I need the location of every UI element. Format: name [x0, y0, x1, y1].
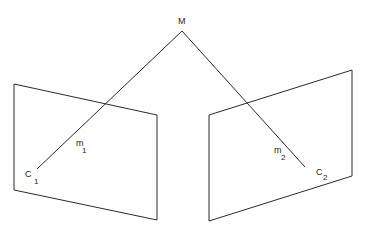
- projection-label-m1: m 1: [76, 138, 87, 155]
- stereo-diagram: M m 1 C 1 m 2 C 2: [0, 0, 365, 231]
- svg-text:2: 2: [323, 173, 328, 182]
- point-label-M: M: [178, 16, 186, 26]
- center-label-C2: C 2: [316, 167, 328, 182]
- ray-left: [37, 31, 182, 169]
- svg-text:2: 2: [281, 153, 286, 162]
- svg-text:1: 1: [34, 177, 39, 186]
- svg-text:C: C: [25, 169, 32, 179]
- center-label-C1: C 1: [25, 169, 39, 186]
- svg-text:C: C: [316, 167, 323, 177]
- svg-text:1: 1: [82, 146, 87, 155]
- projection-label-m2: m 2: [274, 145, 286, 162]
- ray-right: [182, 31, 305, 167]
